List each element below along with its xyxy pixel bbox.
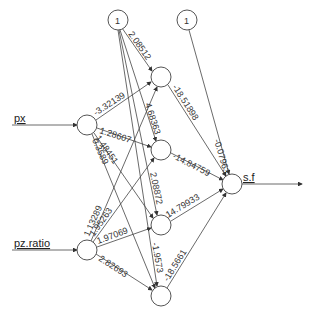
hidden-node-1 bbox=[151, 67, 171, 87]
output-node bbox=[222, 174, 242, 194]
weight-pz-h4: 2.82693 bbox=[97, 253, 130, 279]
bias-2-label: 1 bbox=[184, 16, 189, 26]
weight-h4-out: -18.5661 bbox=[161, 248, 188, 283]
input-node-pz-ratio bbox=[77, 240, 97, 260]
input-node-px bbox=[77, 115, 97, 135]
weight-b1-h1: 2.08512 bbox=[126, 29, 153, 61]
input-label-px: px bbox=[14, 112, 26, 124]
hidden-node-2 bbox=[151, 140, 171, 160]
output-label: s.f bbox=[243, 171, 256, 183]
weight-h2-out: -14.84759 bbox=[171, 151, 212, 178]
neural-network-diagram: 1 1 px pz.ratio s.f 2.08512 4.68363 2.08… bbox=[0, 0, 314, 322]
bias-1-label: 1 bbox=[115, 16, 120, 26]
weight-b2-out: -0.07963 bbox=[212, 138, 231, 175]
weight-b1-h3: 2.08872 bbox=[148, 171, 165, 205]
weight-h1-out: -18.51898 bbox=[170, 83, 200, 122]
weight-b1-h2: 4.68363 bbox=[143, 102, 163, 136]
input-label-pz-ratio: pz.ratio bbox=[14, 237, 50, 249]
hidden-node-4 bbox=[151, 286, 171, 306]
weight-px-h1: -3.32139 bbox=[92, 90, 127, 118]
